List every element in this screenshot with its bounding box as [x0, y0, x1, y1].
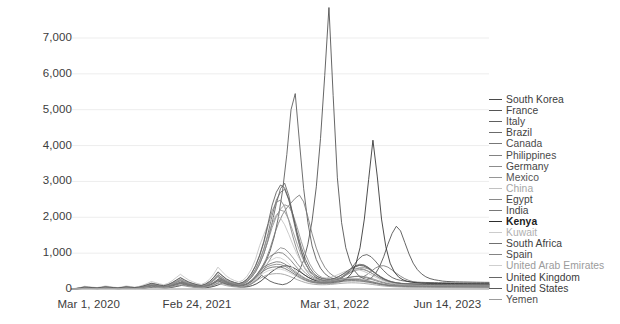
legend-item[interactable]: Kenya — [489, 216, 620, 227]
legend-swatch-icon — [489, 243, 502, 244]
legend-item[interactable]: Spain — [489, 249, 620, 260]
legend-item-label: Italy — [506, 116, 525, 127]
series-line — [72, 200, 489, 289]
legend-swatch-icon — [489, 199, 502, 200]
series-line — [72, 264, 489, 289]
legend-swatch-icon — [489, 143, 502, 144]
legend-item-label: China — [506, 183, 533, 194]
legend-item[interactable]: China — [489, 183, 620, 194]
legend-item-label: United States — [506, 283, 568, 294]
legend-swatch-icon — [489, 121, 502, 122]
x-axis-tick-label: Mar 31, 2022 — [300, 298, 369, 310]
chart-container: 7,0006,0005,0004,0003,0002,0001,0000 Mar… — [0, 0, 620, 324]
series-line — [72, 140, 489, 289]
legend-item[interactable]: Egypt — [489, 194, 620, 205]
legend-item[interactable]: South Africa — [489, 238, 620, 249]
series-line — [72, 8, 489, 289]
legend-swatch-icon — [489, 299, 502, 300]
series-line — [72, 183, 489, 289]
legend-swatch-icon — [489, 288, 502, 289]
legend-item[interactable]: Mexico — [489, 172, 620, 183]
legend-item-label: South Africa — [506, 238, 562, 249]
legend-item-label: Egypt — [506, 194, 533, 205]
legend-item[interactable]: France — [489, 105, 620, 116]
legend-swatch-icon — [489, 132, 502, 133]
series-line — [72, 94, 489, 289]
legend-swatch-icon — [489, 99, 502, 100]
legend-item-label: India — [506, 205, 529, 216]
legend-item[interactable]: Canada — [489, 138, 620, 149]
legend-swatch-icon — [489, 221, 502, 222]
legend-item[interactable]: Italy — [489, 116, 620, 127]
legend-swatch-icon — [489, 210, 502, 211]
legend-item-label: Germany — [506, 161, 549, 172]
legend-swatch-icon — [489, 155, 502, 156]
legend-item-label: United Arab Emirates — [506, 260, 604, 271]
legend-swatch-icon — [489, 188, 502, 189]
chart-legend: South KoreaFranceItalyBrazilCanadaPhilip… — [489, 94, 620, 305]
x-axis-tick-label: Feb 24, 2021 — [163, 298, 232, 310]
y-axis-tick-label: 4,000 — [14, 140, 72, 151]
legend-swatch-icon — [489, 110, 502, 111]
x-axis-tick-label: Jun 14, 2023 — [413, 298, 481, 310]
legend-swatch-icon — [489, 254, 502, 255]
legend-item-label: Canada — [506, 138, 542, 149]
y-axis-tick-label: 0 — [14, 283, 72, 294]
series-line — [72, 215, 489, 288]
legend-item-label: Brazil — [506, 127, 532, 138]
legend-item-label: Kuwait — [506, 227, 537, 238]
gridlines — [72, 38, 489, 289]
y-axis-tick-labels: 7,0006,0005,0004,0003,0002,0001,0000 — [12, 0, 72, 324]
series-lines — [72, 8, 489, 289]
legend-item-label: Kenya — [506, 216, 537, 227]
legend-item-label: France — [506, 105, 538, 116]
y-axis-tick-label: 2,000 — [14, 211, 72, 222]
y-axis-tick-label: 7,000 — [14, 32, 72, 43]
legend-item[interactable]: Germany — [489, 161, 620, 172]
legend-item-label: Philippines — [506, 150, 556, 161]
legend-item[interactable]: Yemen — [489, 294, 620, 305]
legend-item-label: United Kingdom — [506, 272, 580, 283]
legend-swatch-icon — [489, 277, 502, 278]
legend-swatch-icon — [489, 232, 502, 233]
legend-item[interactable]: United Arab Emirates — [489, 260, 620, 271]
legend-swatch-icon — [489, 166, 502, 167]
legend-item[interactable]: United Kingdom — [489, 272, 620, 283]
y-axis-tick-label: 1,000 — [14, 247, 72, 258]
legend-swatch-icon — [489, 265, 502, 266]
x-axis-tick-label: Mar 1, 2020 — [57, 298, 119, 310]
y-axis-tick-label: 3,000 — [14, 175, 72, 186]
legend-item[interactable]: Kuwait — [489, 227, 620, 238]
legend-item[interactable]: Philippines — [489, 149, 620, 160]
y-axis-tick-label: 5,000 — [14, 104, 72, 115]
legend-item[interactable]: United States — [489, 283, 620, 294]
legend-item[interactable]: Brazil — [489, 127, 620, 138]
y-axis-tick-label: 6,000 — [14, 68, 72, 79]
legend-item[interactable]: South Korea — [489, 94, 620, 105]
legend-item[interactable]: India — [489, 205, 620, 216]
legend-item-label: Spain — [506, 249, 533, 260]
legend-swatch-icon — [489, 177, 502, 178]
legend-item-label: Yemen — [506, 294, 538, 305]
legend-item-label: South Korea — [506, 94, 564, 105]
legend-item-label: Mexico — [506, 172, 539, 183]
